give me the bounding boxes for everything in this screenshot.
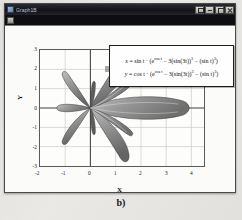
equation-y-close: ) <box>216 71 218 77</box>
equation-y-rhs-pre: = cos t · (e <box>127 71 154 77</box>
x-axis-title: X <box>117 186 122 194</box>
equation-x-rhs-post: − 3(sin(3t)) <box>162 58 191 64</box>
x-tick-label-1: 1 <box>114 170 117 176</box>
y-tick-label-1: 1 <box>25 85 37 91</box>
y-tick-label-3: 3 <box>25 46 37 52</box>
window-titlebar[interactable]: Graph1B <box>5 4 235 15</box>
restore-button[interactable] <box>195 6 204 14</box>
window-toolbar <box>5 15 235 25</box>
equation-y: y = cos t · (ecos t − 3(sin(3t))3 − (sin… <box>114 68 229 78</box>
equation-x-rhs-tail: − (sin t) <box>193 58 214 64</box>
equation-legend-box[interactable]: x = sin t · (ecos t − 3(sin(3t))3 − (sin… <box>109 45 234 87</box>
minimize-button[interactable] <box>205 6 214 14</box>
x-tick-label-2: 2 <box>139 170 142 176</box>
equation-x-close: ) <box>216 58 218 64</box>
equation-y-rhs-post: − 3(sin(3t)) <box>162 71 191 77</box>
titlebar-left-group: Graph1B <box>7 6 195 13</box>
y-tick-label-0: 0 <box>25 105 37 111</box>
equation-x: x = sin t · (ecos t − 3(sin(3t))3 − (sin… <box>114 55 229 65</box>
equation-x-rhs-pre: = sin t · (e <box>128 58 154 64</box>
application-icon <box>7 6 14 13</box>
plot-canvas: 3 2 1 0 -1 -2 -3 -2 -1 0 1 2 3 4 Y X <box>5 26 235 192</box>
y-axis-title: Y <box>16 95 24 100</box>
maximize-button[interactable] <box>215 6 224 14</box>
y-tick-label-n1: -1 <box>23 124 37 130</box>
x-tick-label-3: 3 <box>165 170 168 176</box>
close-button[interactable] <box>225 6 234 14</box>
x-tick-label-n1: -1 <box>61 170 66 176</box>
plot-application-window: Graph1B <box>4 3 236 193</box>
plot-client-area: 3 2 1 0 -1 -2 -3 -2 -1 0 1 2 3 4 Y X <box>5 25 235 192</box>
page-background: Graph1B <box>0 0 242 220</box>
equation-y-rhs-tail: − (sin t) <box>194 71 215 77</box>
y-tick-label-n2: -2 <box>23 144 37 150</box>
equation-x-exponent: cos t <box>154 56 162 61</box>
x-tick-label-0: 0 <box>88 170 91 176</box>
document-icon[interactable] <box>7 17 14 24</box>
window-controls <box>195 6 234 14</box>
y-tick-label-2: 2 <box>25 65 37 71</box>
window-title: Graph1B <box>16 7 37 13</box>
x-tick-label-4: 4 <box>190 170 193 176</box>
x-tick-label-n2: -2 <box>35 170 40 176</box>
figure-caption: b) <box>0 197 242 208</box>
y-tick-label-n3: -3 <box>23 163 37 169</box>
